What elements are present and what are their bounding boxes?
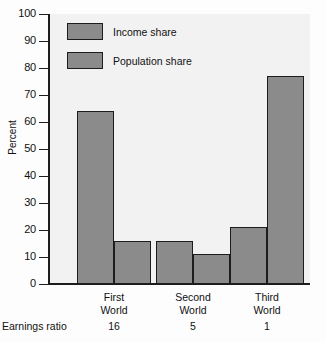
legend-swatch-income-share	[67, 23, 103, 40]
y-axis-line	[48, 14, 50, 285]
y-axis-tick-100	[39, 14, 48, 15]
y-axis-tick-label-20: 20	[0, 223, 36, 235]
legend-label-population-share: Population share	[113, 55, 192, 67]
y-axis-tick-label-70: 70	[0, 88, 36, 100]
y-axis-tick-label-80: 80	[0, 61, 36, 73]
y-axis-tick-70	[39, 95, 48, 96]
x-axis-label-line: World	[221, 304, 313, 317]
x-axis-label-line: Third	[221, 291, 313, 304]
y-axis-tick-20	[39, 230, 48, 231]
y-axis-tick-30	[39, 203, 48, 204]
y-axis-tick-label-0: 0	[0, 277, 36, 289]
bar-third-world-income-share	[230, 227, 267, 284]
y-axis-tick-90	[39, 41, 48, 42]
y-axis-tick-50	[39, 149, 48, 150]
earnings-ratio-value-third-world: 1	[221, 320, 313, 332]
y-axis-tick-10	[39, 257, 48, 258]
earnings-ratio-caption: Earnings ratio	[2, 320, 67, 332]
y-axis-tick-label-30: 30	[0, 196, 36, 208]
bar-first-world-income-share	[77, 111, 114, 284]
bar-second-world-population-share	[193, 254, 230, 284]
bar-second-world-income-share	[156, 241, 193, 284]
legend-label-income-share: Income share	[113, 26, 177, 38]
y-axis-tick-label-60: 60	[0, 115, 36, 127]
y-axis-tick-60	[39, 122, 48, 123]
bar-first-world-population-share	[114, 241, 151, 284]
y-axis-tick-0	[39, 284, 48, 285]
y-axis-tick-80	[39, 68, 48, 69]
y-axis-tick-label-100: 100	[0, 7, 36, 19]
legend-swatch-population-share	[67, 52, 103, 69]
bar-chart: Percent 0102030405060708090100 Income sh…	[0, 0, 326, 342]
x-axis-label-third-world: ThirdWorld	[221, 291, 313, 316]
y-axis-tick-label-10: 10	[0, 250, 36, 262]
bar-third-world-population-share	[267, 76, 304, 284]
y-axis-tick-label-90: 90	[0, 34, 36, 46]
y-axis-tick-40	[39, 176, 48, 177]
y-axis-tick-label-40: 40	[0, 169, 36, 181]
y-axis-tick-label-50: 50	[0, 142, 36, 154]
